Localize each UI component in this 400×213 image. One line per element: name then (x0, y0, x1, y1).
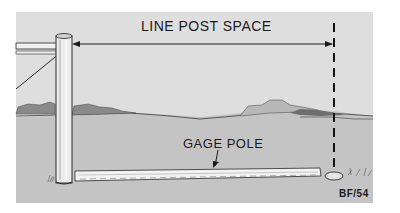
reference-code: BF/54 (339, 188, 369, 199)
line-post-space-label: LINE POST SPACE (141, 18, 272, 34)
post-top (56, 34, 72, 39)
hills-middle (72, 104, 136, 115)
arrowhead-left (72, 41, 80, 47)
hills-left (16, 102, 55, 114)
corner-post (56, 36, 72, 183)
stake (325, 172, 343, 180)
fence-rail-top (16, 43, 58, 49)
arrowhead-right (325, 41, 333, 47)
gage-pole-label: GAGE POLE (183, 136, 263, 151)
fence-rail-lower (16, 51, 58, 54)
